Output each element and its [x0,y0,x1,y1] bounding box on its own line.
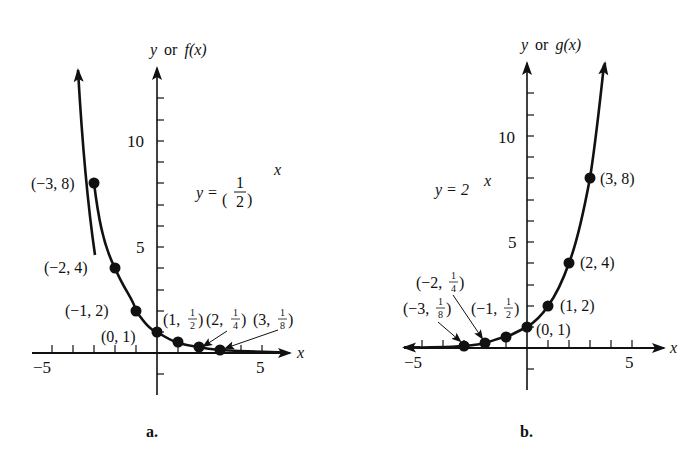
panel-a: −5 5 5 10 y or f(x) x (−3, 8) (−2, 4) [31,41,304,440]
figure-canvas: −5 5 5 10 y or f(x) x (−3, 8) (−2, 4) [0,0,695,455]
point-b-1 [543,301,554,312]
svg-text:1: 1 [233,307,238,318]
point-a-0 [152,327,163,338]
leader-arrow-a-3 [226,330,278,348]
point-label-a-neg2: (−2, 4) [44,259,88,277]
x-tick-label-5: 5 [256,358,265,377]
equation-label-b: y = 2 x [433,172,491,199]
point-label-a-neg1: (−1, 2) [65,302,109,320]
x-tick-label-neg5: −5 [404,353,422,372]
svg-text:(−1,: (−1, [471,300,497,318]
svg-text:(: ( [222,191,227,209]
svg-text:=: = [208,184,217,201]
curve-b-arrow [604,63,605,70]
svg-text:x: x [273,161,281,178]
svg-text:8: 8 [280,320,285,331]
point-label-a-neg3: (−3, 8) [31,175,75,193]
svg-text:y = 2: y = 2 [433,181,469,199]
svg-text:2: 2 [506,309,511,320]
caption-a: a. [146,423,158,440]
svg-text:): ) [446,300,451,318]
y-tick-label-10: 10 [498,128,515,147]
svg-text:(3,: (3, [253,311,270,329]
point-a-2 [194,342,205,353]
caption-b: b. [520,423,533,440]
point-label-a-3: (3, 1 8 ) [253,307,293,331]
svg-text:1: 1 [190,307,195,318]
y-axis-label: y or f(x) [148,41,207,59]
point-label-b-1: (1, 2) [560,297,595,315]
svg-text:): ) [459,274,464,292]
equation-label-a: y = ( 1 2 ) x [194,161,281,210]
svg-text:(2,: (2, [206,311,223,329]
svg-text:(−3,: (−3, [403,300,429,318]
point-a-1 [173,337,184,348]
svg-text:1: 1 [280,307,285,318]
svg-text:(−2,: (−2, [416,274,442,292]
y-tick-label-10: 10 [127,132,144,151]
point-label-a-2: (2, 1 4 ) [206,307,246,331]
point-a-neg3 [89,178,100,189]
x-axis-label: x [669,339,677,356]
point-a-neg2 [110,263,121,274]
y-axis-label: y or g(x) [519,36,581,54]
point-b-2 [564,258,575,269]
curve-half-power-x [78,70,95,255]
svg-text:): ) [241,311,246,329]
svg-text:): ) [247,191,252,209]
svg-text:): ) [198,311,203,329]
svg-text:): ) [514,300,519,318]
svg-text:y: y [194,184,204,202]
svg-text:(1,: (1, [163,311,180,329]
point-b-3 [585,173,596,184]
point-label-b-2: (2, 4) [580,254,615,272]
point-label-b-neg2: (−2, 1 4 ) [416,270,464,294]
point-b-0 [522,322,533,333]
svg-text:2: 2 [236,193,244,210]
point-label-a-1: (1, 1 2 ) [163,307,203,331]
point-b-neg2 [480,338,491,349]
x-tick-label-neg5: −5 [33,358,51,377]
point-label-b-3: (3, 8) [600,170,635,188]
point-label-b-neg1: (−1, 1 2 ) [471,296,519,320]
svg-text:1: 1 [236,174,244,191]
point-label-b-0: (0, 1) [536,321,571,339]
svg-text:1: 1 [451,270,456,281]
svg-text:4: 4 [233,320,238,331]
point-a-3 [215,345,226,356]
y-tick-label-5: 5 [508,233,517,252]
svg-text:2: 2 [190,320,195,331]
y-tick-label-5: 5 [136,238,145,257]
svg-text:8: 8 [438,309,443,320]
point-b-neg1 [501,332,512,343]
svg-text:1: 1 [438,296,443,307]
panel-b: −5 5 5 10 y or g(x) x (3, 8) (2, 4) (1, … [403,36,677,440]
svg-text:x: x [483,172,491,189]
x-tick-label-5: 5 [625,353,634,372]
x-axis-label: x [296,344,304,361]
svg-text:1: 1 [506,296,511,307]
svg-text:4: 4 [451,283,456,294]
point-label-b-neg3: (−3, 1 8 ) [403,296,451,320]
point-a-neg1 [131,306,142,317]
point-b-neg3 [459,341,470,352]
leader-arrow-b-neg3 [438,322,460,341]
leader-arrow-a-2 [204,331,227,346]
point-label-a-0: (0, 1) [101,328,136,346]
svg-text:): ) [288,311,293,329]
